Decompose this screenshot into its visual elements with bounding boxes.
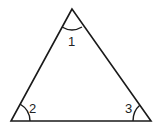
angle-3-arc: [133, 105, 140, 121]
angle-1-label: 1: [68, 34, 75, 49]
angle-1-arc: [62, 27, 82, 30]
angle-2-label: 2: [29, 101, 36, 116]
triangle-diagram: 1 2 3: [0, 0, 161, 133]
angle-3-label: 3: [125, 101, 132, 116]
